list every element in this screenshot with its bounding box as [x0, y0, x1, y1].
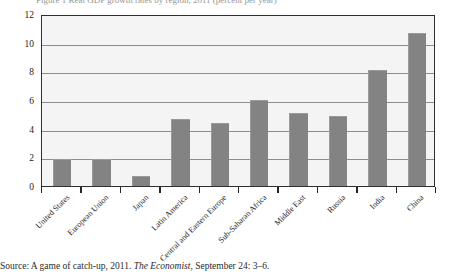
y-tick-label-0: 0 — [29, 183, 34, 192]
bar — [368, 70, 386, 186]
source-prefix: Source: A game of catch-up, 2011. — [0, 261, 134, 271]
x-tick — [435, 187, 436, 193]
source-suffix: , September 24: 3–6. — [190, 261, 269, 271]
x-label: Latin America — [150, 193, 190, 233]
x-label: India — [368, 193, 386, 211]
bar — [211, 123, 229, 186]
x-label: Russia — [325, 193, 347, 215]
x-label: European Union — [66, 193, 110, 237]
x-label: China — [405, 193, 425, 213]
y-axis: 024681012 — [0, 15, 38, 187]
y-tick-label-8: 8 — [29, 68, 34, 77]
y-tick-label-12: 12 — [25, 11, 35, 20]
bar — [53, 159, 71, 186]
y-tick-label-6: 6 — [29, 97, 34, 106]
bar — [329, 116, 347, 186]
bar — [171, 119, 189, 186]
bar — [408, 33, 426, 186]
bar-chart-figure: 024681012 United StatesEuropean UnionJap… — [0, 0, 453, 275]
x-label: United States — [34, 193, 71, 230]
bar-series — [42, 16, 434, 186]
bar — [92, 159, 110, 186]
x-label: Central and Eastern Europe — [158, 193, 228, 263]
y-tick-label-4: 4 — [29, 125, 34, 134]
plot-area — [41, 15, 435, 187]
y-tick-label-2: 2 — [29, 154, 34, 163]
bar — [250, 100, 268, 186]
x-label: Japan — [130, 193, 150, 213]
x-axis-category-labels: United StatesEuropean UnionJapanLatin Am… — [41, 193, 435, 253]
bar — [289, 113, 307, 186]
x-label: Middle East — [273, 193, 308, 228]
source-caption: Source: A game of catch-up, 2011. The Ec… — [0, 261, 453, 275]
source-publication: The Economist — [134, 261, 191, 271]
bar — [132, 176, 150, 186]
y-tick-label-10: 10 — [25, 39, 35, 48]
